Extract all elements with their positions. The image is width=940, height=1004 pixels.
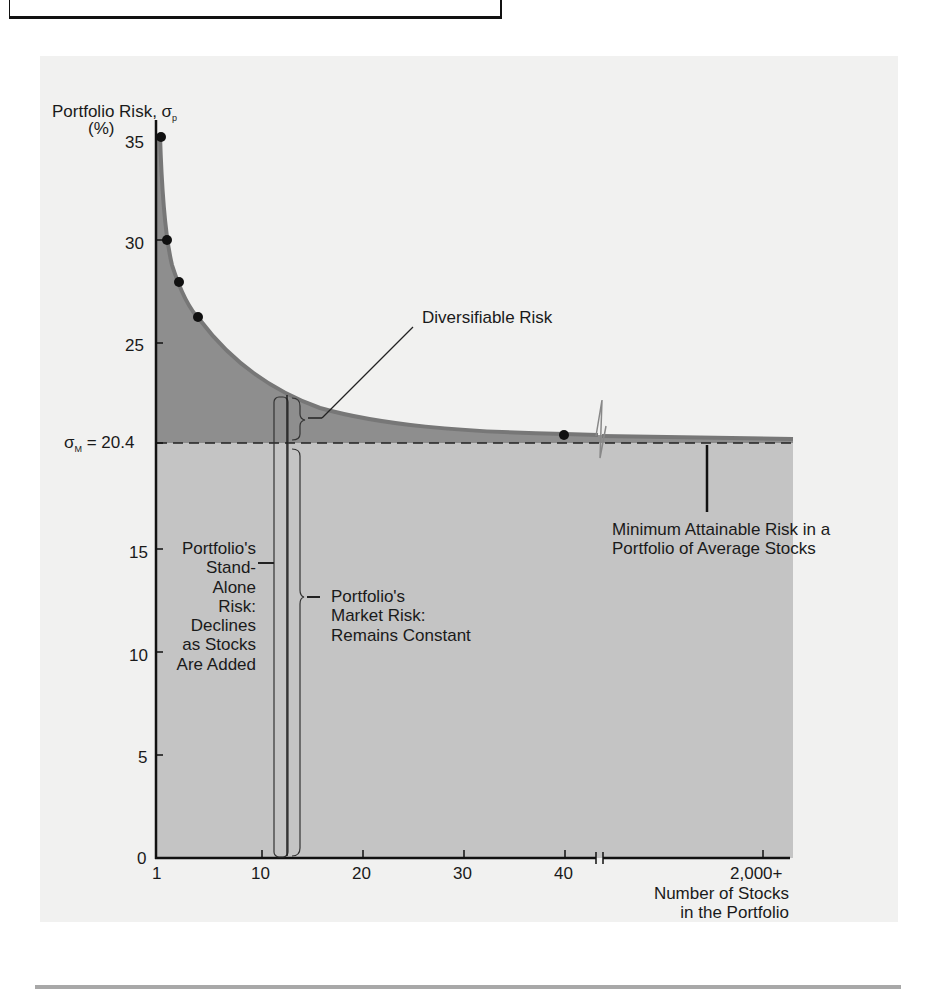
x-tick-1: 1 [152,864,161,883]
data-point [193,312,203,322]
min-risk-label-line2: Portfolio of Average Stocks [612,539,816,558]
y-tick-10: 10 [129,646,148,665]
y-tick-sigma-m: σM = 20.4 [64,433,134,459]
data-point [162,235,172,245]
x-tick-30: 30 [453,864,472,883]
data-point [156,132,166,142]
x-tick-10: 10 [251,864,270,883]
bottom-rule [35,985,901,989]
market-risk-label: Portfolio's Market Risk: Remains Constan… [331,587,471,645]
y-tick-25: 25 [125,336,144,355]
x-axis-title-line1: Number of Stocks [629,884,789,903]
min-risk-label-line1: Minimum Attainable Risk in a [612,520,830,539]
data-point [174,277,184,287]
data-point [559,430,569,440]
y-tick-30: 30 [125,234,144,253]
y-tick-5: 5 [138,748,147,767]
y-tick-35: 35 [125,133,144,152]
x-axis-title-line2: in the Portfolio [629,903,789,922]
y-axis-unit: (%) [88,119,114,138]
y-tick-15: 15 [129,543,148,562]
x-tick-2000-plus: 2,000+ [730,864,782,883]
diversifiable-risk-label: Diversifiable Risk [422,308,552,327]
x-tick-40: 40 [554,864,573,883]
diversifiable-risk-region [157,135,793,443]
standalone-risk-label: Portfolio's Stand- Alone Risk: Declines … [158,539,256,674]
x-tick-20: 20 [352,864,371,883]
y-axis-title: Portfolio Risk, σp [52,102,177,128]
y-tick-0: 0 [137,849,146,868]
diversifiable-leader-diagonal [322,327,413,418]
